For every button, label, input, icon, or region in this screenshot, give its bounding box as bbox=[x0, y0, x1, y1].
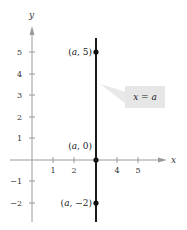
point-label-a-0: (a, 0) bbox=[68, 141, 92, 151]
point-a-neg2 bbox=[93, 200, 98, 205]
y-tick-2: 2 bbox=[17, 113, 22, 122]
axes: x y bbox=[10, 10, 176, 222]
chart: x = a x y 1 2 4 5 5 4 3 2 1 −1 −2 (a bbox=[0, 0, 187, 230]
y-tick-1: 1 bbox=[17, 134, 22, 143]
x-tick-2: 2 bbox=[71, 166, 76, 175]
y-axis-arrow-icon bbox=[30, 26, 35, 35]
y-tick-neg2: −2 bbox=[10, 199, 22, 208]
x-tick-4: 4 bbox=[114, 166, 119, 175]
x-axis-label: x bbox=[171, 155, 176, 165]
y-tick-neg1: −1 bbox=[10, 177, 22, 186]
equation-callout: x = a bbox=[100, 84, 165, 108]
point-label-a-5: (a, 5) bbox=[68, 47, 92, 57]
x-tick-5: 5 bbox=[135, 166, 140, 175]
point-a-5 bbox=[93, 49, 98, 54]
y-tick-4: 4 bbox=[17, 70, 22, 79]
callout-pointer bbox=[100, 84, 126, 104]
y-tick-5: 5 bbox=[17, 48, 22, 57]
point-a-0 bbox=[93, 157, 98, 162]
x-tick-1: 1 bbox=[50, 166, 55, 175]
point-label-a-neg2: (a, −2) bbox=[61, 198, 92, 208]
equation-label: x = a bbox=[133, 92, 157, 102]
y-axis-label: y bbox=[28, 10, 35, 20]
x-axis-arrow-icon bbox=[158, 158, 167, 163]
y-tick-3: 3 bbox=[17, 91, 22, 100]
